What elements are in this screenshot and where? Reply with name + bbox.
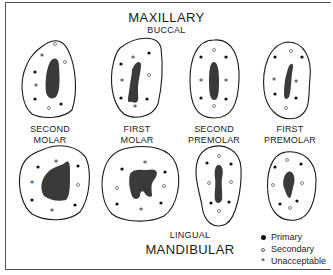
svg-text:*: * bbox=[131, 54, 136, 64]
svg-text:*: * bbox=[30, 179, 35, 189]
svg-text:*: * bbox=[199, 77, 204, 87]
svg-text:*: * bbox=[120, 77, 125, 87]
label-line2: MOLAR bbox=[107, 135, 167, 146]
pulp-max-second-premolar bbox=[209, 62, 219, 100]
legend-item-primary: Primary bbox=[258, 231, 326, 243]
svg-text:*: * bbox=[294, 78, 299, 88]
filled-dot-icon bbox=[261, 235, 266, 240]
label-first-molar: FIRST MOLAR bbox=[107, 124, 167, 146]
pulp-mand-second-premolar bbox=[215, 165, 223, 203]
pulp-max-first-premolar bbox=[284, 64, 293, 99]
svg-text:*: * bbox=[50, 207, 55, 217]
label-line1: FIRST bbox=[260, 124, 320, 135]
label-line1: SECOND bbox=[20, 124, 80, 135]
label-line2: PREMOLAR bbox=[260, 135, 320, 146]
pulp-mand-first-premolar bbox=[283, 172, 294, 198]
svg-text:*: * bbox=[272, 76, 277, 86]
svg-text:*: * bbox=[133, 103, 138, 113]
asterisk-icon: * bbox=[261, 256, 265, 266]
legend-label: Secondary bbox=[271, 243, 314, 255]
label-line2: MOLAR bbox=[20, 135, 80, 146]
svg-text:*: * bbox=[54, 158, 59, 168]
label-line1: SECOND bbox=[184, 124, 244, 135]
legend-label: Primary bbox=[271, 231, 302, 243]
legend: Primary Secondary * Unacceptable bbox=[258, 231, 326, 267]
pulp-max-first-molar bbox=[128, 62, 141, 103]
open-dot-icon bbox=[261, 248, 265, 252]
label-line2: PREMOLAR bbox=[184, 135, 244, 146]
svg-text:*: * bbox=[40, 52, 45, 62]
label-second-molar: SECOND MOLAR bbox=[20, 124, 80, 146]
label-first-premolar: FIRST PREMOLAR bbox=[260, 124, 320, 146]
label-line1: FIRST bbox=[107, 124, 167, 135]
pulp-max-second-molar bbox=[46, 59, 60, 99]
lingual-label: LINGUAL bbox=[150, 230, 230, 240]
svg-text:*: * bbox=[143, 159, 148, 169]
legend-label: Unacceptable bbox=[271, 255, 326, 267]
svg-text:*: * bbox=[34, 82, 39, 92]
legend-item-unacceptable: * Unacceptable bbox=[258, 255, 326, 267]
legend-item-secondary: Secondary bbox=[258, 243, 326, 255]
label-second-premolar: SECOND PREMOLAR bbox=[184, 124, 244, 146]
svg-text:*: * bbox=[224, 77, 229, 87]
svg-text:*: * bbox=[139, 206, 144, 216]
pulp-mand-first-molar bbox=[129, 169, 157, 199]
mandibular-title: MANDIBULAR bbox=[140, 242, 240, 257]
